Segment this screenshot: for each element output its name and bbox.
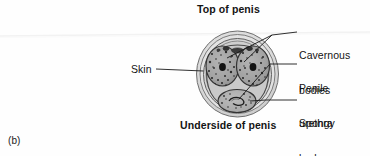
label-spongy-body-line1: Spongy <box>299 118 335 130</box>
label-penile-urethra-line1: Penile <box>299 83 333 95</box>
label-top-of-penis: Top of penis <box>197 4 260 16</box>
label-underside-of-penis: Underside of penis <box>180 120 276 132</box>
figure-panel-caption: (b) <box>8 135 20 147</box>
label-skin: Skin <box>131 64 152 76</box>
deep-artery-right <box>250 63 257 71</box>
deep-artery-left <box>219 63 226 71</box>
label-spongy-body: Spongy body <box>299 95 335 156</box>
figure-panel-b: Top of penis Underside of penis Skin Cav… <box>0 0 370 156</box>
label-spongy-body-line2: body <box>299 153 335 157</box>
leader-line-spongy-body <box>250 100 297 101</box>
